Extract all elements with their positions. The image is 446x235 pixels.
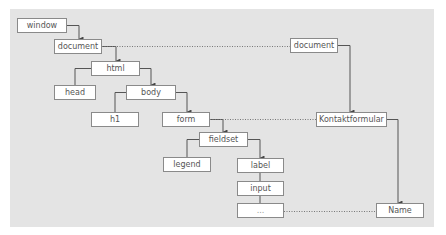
node-document: document bbox=[54, 39, 102, 54]
node-form: form bbox=[162, 112, 210, 127]
node-name: Name bbox=[376, 203, 424, 218]
node-head: head bbox=[54, 85, 96, 100]
node-input: input bbox=[237, 181, 284, 196]
node-document-right: document bbox=[290, 38, 338, 53]
node-body: body bbox=[126, 85, 176, 100]
node-label: label bbox=[237, 158, 284, 173]
node-kontaktformular: Kontaktformular bbox=[316, 112, 387, 127]
node-window: window bbox=[17, 18, 67, 33]
node-legend: legend bbox=[163, 157, 211, 172]
node-ellipsis: ... bbox=[237, 203, 284, 218]
node-html: html bbox=[91, 61, 140, 76]
node-h1: h1 bbox=[91, 112, 139, 127]
node-fieldset: fieldset bbox=[199, 132, 248, 147]
